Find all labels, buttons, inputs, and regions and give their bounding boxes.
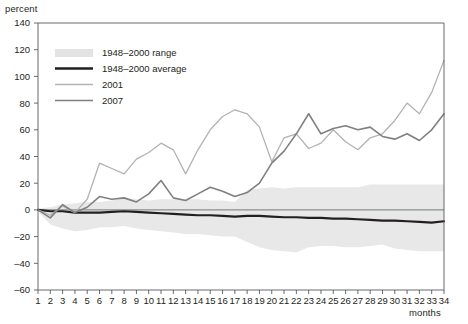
- y-tick-label: 140: [14, 17, 30, 28]
- y-tick-label: 80: [19, 98, 30, 109]
- x-tick-label: 19: [254, 295, 265, 306]
- x-tick-label: 32: [414, 295, 425, 306]
- legend-swatch-band: [55, 49, 93, 57]
- x-tick-label: 12: [168, 295, 179, 306]
- y-tick-label: 60: [19, 124, 30, 135]
- x-tick-label: 31: [402, 295, 413, 306]
- x-tick-label: 11: [156, 295, 166, 306]
- x-tick-label: 13: [180, 295, 191, 306]
- chart-container: percent months 140120100806040200–20–40–…: [0, 0, 468, 324]
- x-tick-label: 21: [279, 295, 290, 306]
- y-tick-label: 120: [14, 44, 30, 55]
- x-tick-label: 34: [439, 295, 450, 306]
- y-tick-label: 20: [19, 178, 30, 189]
- x-tick-label: 5: [85, 295, 90, 306]
- legend-label: 1948–2000 range: [102, 47, 177, 58]
- legend-label: 1948–2000 average: [102, 63, 187, 74]
- y-tick-label: 40: [19, 151, 30, 162]
- x-tick-label: 17: [230, 295, 241, 306]
- x-tick-label: 24: [316, 295, 327, 306]
- x-tick-label: 20: [266, 295, 277, 306]
- x-tick-label: 29: [377, 295, 388, 306]
- x-tick-label: 22: [291, 295, 302, 306]
- y-tick-label: –20: [14, 231, 30, 242]
- x-tick-label: 3: [60, 295, 65, 306]
- y-tick-label: –60: [14, 284, 30, 295]
- x-tick-label: 4: [72, 295, 77, 306]
- x-tick-label: 16: [217, 295, 228, 306]
- y-tick-label: 100: [14, 71, 30, 82]
- axes-group: [34, 23, 444, 294]
- x-tick-label: 8: [121, 295, 126, 306]
- x-tick-label: 6: [97, 295, 102, 306]
- x-tick-labels: 1234567891011121314151617181920212223242…: [35, 295, 449, 306]
- y-tick-labels: 140120100806040200–20–40–60: [14, 17, 30, 295]
- legend-label: 2001: [102, 79, 123, 90]
- x-tick-label: 18: [242, 295, 253, 306]
- y-tick-label: 0: [25, 204, 30, 215]
- x-tick-label: 27: [353, 295, 364, 306]
- legend-label: 2007: [102, 95, 123, 106]
- x-tick-label: 9: [134, 295, 139, 306]
- x-tick-label: 10: [143, 295, 154, 306]
- y-axis-title: percent: [5, 3, 37, 14]
- x-tick-label: 23: [303, 295, 314, 306]
- chart-legend: 1948–2000 range1948–2000 average20012007: [55, 47, 187, 106]
- x-tick-label: 30: [389, 295, 400, 306]
- x-tick-label: 28: [365, 295, 376, 306]
- x-tick-label: 2: [48, 295, 53, 306]
- y-tick-label: –40: [14, 258, 30, 269]
- x-tick-label: 14: [193, 295, 204, 306]
- x-tick-label: 1: [35, 295, 40, 306]
- x-tick-label: 25: [328, 295, 339, 306]
- line-chart-plot: 140120100806040200–20–40–60 123456789101…: [0, 0, 468, 324]
- x-axis-title: months: [409, 307, 441, 318]
- x-tick-label: 33: [426, 295, 437, 306]
- x-tick-label: 26: [340, 295, 351, 306]
- x-tick-label: 15: [205, 295, 216, 306]
- x-tick-label: 7: [109, 295, 114, 306]
